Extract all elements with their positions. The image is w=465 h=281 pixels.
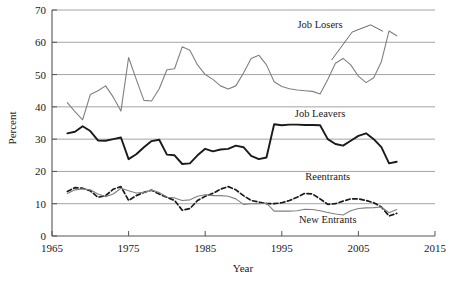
x-tick-label-2005: 2005 — [347, 242, 370, 254]
y-tick-label-20: 20 — [35, 165, 47, 177]
x-tick-label-1985: 1985 — [194, 242, 217, 254]
annotation-reentrants: Reentrants — [305, 171, 350, 182]
y-tick-label-70: 70 — [35, 4, 47, 16]
y-tick-label-30: 30 — [35, 133, 47, 145]
x-tick-label-1965: 1965 — [41, 242, 64, 254]
y-tick-label-40: 40 — [35, 101, 47, 113]
y-axis-title: Percent — [6, 112, 18, 145]
y-tick-label-0: 0 — [41, 230, 47, 242]
annotation-new-entrants: New Entrants — [299, 214, 356, 225]
x-tick-label-2015: 2015 — [424, 242, 447, 254]
y-tick-label-50: 50 — [35, 69, 47, 81]
y-tick-label-60: 60 — [35, 36, 47, 48]
annotation-job-leavers: Job Leavers — [295, 108, 345, 119]
chart-figure: 196519751985199520052015 010203040506070… — [0, 0, 465, 281]
x-axis-title: Year — [233, 262, 254, 274]
line-chart: 196519751985199520052015 010203040506070… — [0, 0, 465, 281]
annotation-job-losers: Job Losers — [297, 19, 342, 30]
x-tick-label-1975: 1975 — [118, 242, 141, 254]
y-tick-label-10: 10 — [35, 198, 47, 210]
x-tick-label-1995: 1995 — [271, 242, 294, 254]
